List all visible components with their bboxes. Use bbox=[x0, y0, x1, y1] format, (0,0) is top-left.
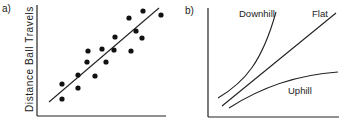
data-point bbox=[92, 73, 97, 78]
y-axis-label: Distance Ball Travels bbox=[24, 6, 35, 112]
flat-label: Flat bbox=[312, 8, 328, 19]
data-point bbox=[158, 12, 163, 17]
panel-b: b) Downhill Flat Uphill bbox=[185, 5, 339, 117]
panel-b-label: b) bbox=[185, 5, 194, 16]
data-point bbox=[140, 8, 145, 13]
uphill-curve bbox=[229, 72, 338, 108]
flat-line bbox=[222, 13, 336, 106]
data-point bbox=[59, 96, 64, 101]
downhill-label: Downhill bbox=[239, 8, 275, 19]
data-point bbox=[112, 34, 117, 39]
regression-line bbox=[49, 8, 159, 102]
panel-a-label: a) bbox=[2, 3, 11, 14]
figure: a) Distance Ball Travels b) Downhill Fla… bbox=[0, 0, 344, 130]
data-point bbox=[75, 85, 80, 90]
data-point bbox=[111, 47, 116, 52]
data-point bbox=[103, 59, 108, 64]
data-point bbox=[126, 15, 131, 20]
data-point bbox=[99, 46, 104, 51]
data-point bbox=[75, 72, 80, 77]
scatter-points bbox=[59, 8, 163, 101]
data-point bbox=[59, 81, 64, 86]
panel-a: a) Distance Ball Travels bbox=[2, 3, 166, 116]
data-point bbox=[84, 59, 89, 64]
data-point bbox=[128, 48, 133, 53]
data-point bbox=[139, 35, 144, 40]
data-point bbox=[85, 48, 90, 53]
uphill-label: Uphill bbox=[288, 85, 312, 96]
data-point bbox=[133, 28, 138, 33]
